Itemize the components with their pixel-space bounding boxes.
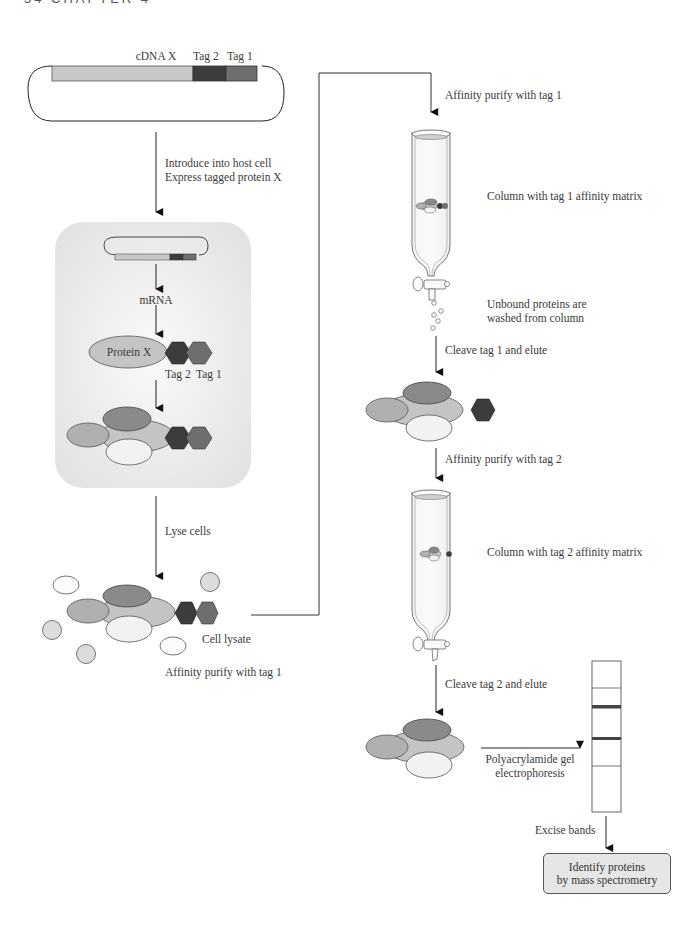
gel-band bbox=[592, 737, 621, 740]
tag1-label-plasmid: Tag 1 bbox=[227, 49, 253, 63]
identify-line2: by mass spectrometry bbox=[557, 874, 657, 887]
page-label-line2: electrophoresis bbox=[480, 766, 580, 780]
identify-line1: Identify proteins bbox=[569, 861, 645, 874]
gel-band bbox=[592, 705, 621, 709]
protein-x-label: Protein X bbox=[99, 345, 159, 359]
affinity-purify-tag1-label-left: Affinity purify with tag 1 bbox=[165, 665, 282, 679]
cleave-tag1-label: Cleave tag 1 and elute bbox=[445, 343, 547, 357]
connector-to-column1 bbox=[251, 73, 431, 615]
gel-lane bbox=[592, 661, 621, 812]
excise-bands-label: Excise bands bbox=[535, 823, 595, 837]
affinity-purify-tag2-label: Affinity purify with tag 2 bbox=[445, 452, 562, 466]
page-label-line1: Polyacrylamide gel bbox=[480, 752, 580, 766]
cell-lysate bbox=[43, 573, 220, 664]
complex-untagged bbox=[366, 719, 464, 778]
lyse-cells-label: Lyse cells bbox=[165, 524, 211, 538]
introduce-label: Introduce into host cell bbox=[165, 156, 271, 170]
mrna-label: mRNA bbox=[126, 293, 186, 307]
tag2-label-cell: Tag 2 bbox=[165, 367, 191, 381]
tag1-label-cell: Tag 1 bbox=[196, 367, 222, 381]
column-tag2-label: Column with tag 2 affinity matrix bbox=[487, 545, 642, 559]
cell-lysate-label: Cell lysate bbox=[202, 632, 251, 646]
tag2-label-plasmid: Tag 2 bbox=[193, 49, 219, 63]
tag1-segment bbox=[226, 66, 257, 81]
identify-proteins-box: Identify proteins by mass spectrometry bbox=[543, 853, 671, 894]
affinity-purify-tag1-label-right: Affinity purify with tag 1 bbox=[445, 88, 562, 102]
column-tag2 bbox=[412, 490, 452, 661]
cdna-label: cDNA X bbox=[106, 49, 206, 63]
plasmid bbox=[28, 66, 284, 121]
complex-tag2-only bbox=[366, 382, 495, 441]
column-tag1 bbox=[412, 130, 450, 330]
cdna-segment bbox=[52, 66, 193, 81]
tag2-segment bbox=[193, 66, 226, 81]
unbound-label-line1: Unbound proteins are bbox=[487, 297, 587, 311]
cleave-tag2-label: Cleave tag 2 and elute bbox=[445, 677, 547, 691]
express-label: Express tagged protein X bbox=[165, 170, 282, 184]
unbound-label-line2: washed from column bbox=[487, 311, 584, 325]
column-tag1-label: Column with tag 1 affinity matrix bbox=[487, 189, 642, 203]
